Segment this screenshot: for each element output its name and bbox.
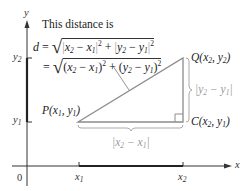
distance-formula-line-2: = √(x2 − x1)2 + (y2 − y1)2 xyxy=(43,55,161,75)
point-q-label: Q(x2, y2) xyxy=(191,52,230,65)
distance-formula-diagram: y x 0 y2 y1 x1 x2 This distance is d = √… xyxy=(0,0,247,191)
x-axis-arrow-icon xyxy=(224,164,232,169)
x2-tick-label: x2 xyxy=(178,172,186,184)
vertical-brace xyxy=(186,58,192,122)
radical-icon: √ xyxy=(52,36,62,57)
y1-tick-label: y1 xyxy=(13,115,21,127)
y-axis-arrow-icon xyxy=(25,20,30,28)
y2-tick-label: y2 xyxy=(13,52,21,64)
radical-icon: √ xyxy=(53,56,63,77)
point-p-label: P(x1, y1) xyxy=(42,105,80,118)
y-axis-label: y xyxy=(24,8,29,19)
vertical-side-label: |y2 − y1| xyxy=(195,84,233,97)
x-axis-label: x xyxy=(235,160,240,171)
horizontal-side-label: |x2 − x1| xyxy=(112,137,150,150)
horizontal-brace xyxy=(78,125,183,131)
right-angle-marker xyxy=(175,114,183,122)
point-c-label: C(x2, y1) xyxy=(191,116,230,129)
origin-label: 0 xyxy=(17,173,22,184)
x1-tick-label: x1 xyxy=(75,172,83,184)
distance-formula-line-1: d = √|x2 − x1|2 + |y2 − y1|2 xyxy=(33,35,154,55)
distance-caption: This distance is xyxy=(42,19,114,31)
